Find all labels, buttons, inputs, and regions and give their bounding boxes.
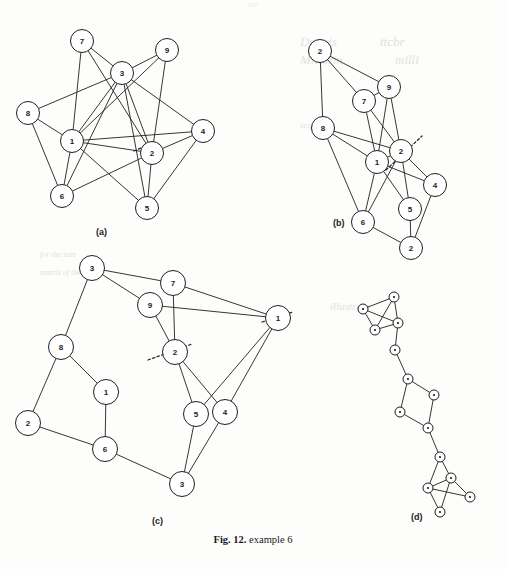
graph-node-4[interactable]: 4	[192, 120, 215, 143]
graph-edge	[403, 162, 408, 197]
graph-node-3[interactable]: 3	[170, 472, 195, 497]
graph-node-8[interactable]: 8	[312, 117, 335, 140]
node-label: 6	[60, 192, 65, 201]
graph-edge	[395, 302, 397, 318]
node-label: 3	[180, 480, 185, 489]
graph-edge	[333, 134, 368, 156]
graph-node[interactable]	[389, 292, 399, 302]
graph-node-7[interactable]: 7	[161, 271, 186, 296]
graph-node-7[interactable]: 7	[353, 90, 376, 113]
node-label: 1	[104, 388, 109, 397]
figure-12-graphs: 7938412652978124562379182125463	[0, 0, 506, 569]
graph-panel-d	[358, 292, 475, 517]
graph-node-1[interactable]: 1	[94, 380, 119, 405]
graph-node-2[interactable]: 2	[309, 40, 332, 63]
graph-node[interactable]	[465, 492, 475, 502]
node-label: 8	[26, 109, 31, 118]
graph-node-5[interactable]: 5	[184, 402, 209, 427]
graph-edge	[231, 329, 272, 401]
graph-node-5[interactable]: 5	[136, 197, 159, 220]
graph-node[interactable]	[390, 345, 400, 355]
graph-edge	[384, 171, 404, 199]
graph-node[interactable]	[395, 407, 405, 417]
node-label-dot	[394, 349, 396, 351]
graph-edge	[33, 358, 56, 411]
graph-edge	[433, 489, 465, 496]
graph-node-2[interactable]: 2	[400, 237, 423, 260]
graph-edge	[404, 414, 423, 425]
graph-edge	[173, 295, 174, 339]
graph-node-1[interactable]: 1	[266, 306, 291, 331]
graph-node-9[interactable]: 9	[378, 76, 401, 99]
graph-node[interactable]	[429, 390, 439, 400]
node-label: 9	[387, 83, 392, 92]
graph-edge	[366, 112, 374, 151]
graph-node-2[interactable]: 2	[16, 411, 41, 436]
graph-node[interactable]	[435, 507, 445, 517]
graph-node[interactable]	[435, 452, 445, 462]
graph-node-6[interactable]: 6	[93, 437, 118, 462]
figure-page: 247 DennisttcbrMillormmillisequenceillus…	[0, 0, 506, 569]
graph-node-9[interactable]: 9	[156, 39, 179, 62]
node-label-dot	[433, 394, 435, 396]
graph-node-1[interactable]: 1	[366, 151, 389, 174]
graph-edge	[391, 98, 399, 139]
graph-node-1[interactable]: 1	[61, 130, 84, 153]
graph-node[interactable]	[423, 423, 433, 433]
graph-node-8[interactable]: 8	[49, 335, 74, 360]
graph-edge	[401, 384, 407, 407]
graph-node[interactable]	[370, 325, 380, 335]
graph-node-2[interactable]: 2	[163, 340, 188, 365]
node-label: 3	[120, 69, 125, 78]
graph-edge	[148, 164, 151, 196]
node-label: 8	[59, 343, 64, 352]
graph-edge	[374, 93, 379, 96]
graph-panel-b: 2978124562	[309, 40, 447, 260]
graph-node-2[interactable]: 2	[141, 142, 164, 165]
graph-edge	[131, 80, 193, 125]
graph-edge	[373, 227, 401, 242]
graph-node-4[interactable]: 4	[424, 174, 447, 197]
graph-node-6[interactable]: 6	[352, 211, 375, 234]
graph-node[interactable]	[403, 374, 413, 384]
node-label-dot	[399, 411, 401, 413]
graph-edge	[83, 143, 140, 152]
graph-node-9[interactable]: 9	[138, 293, 163, 318]
graph-node-6[interactable]: 6	[51, 185, 74, 208]
node-label: 6	[361, 218, 366, 227]
graph-node-3[interactable]: 3	[80, 256, 105, 281]
node-label: 6	[103, 445, 108, 454]
graph-edge	[204, 328, 270, 405]
graph-node-2[interactable]: 2	[390, 140, 413, 163]
graph-node-4[interactable]: 4	[213, 400, 238, 425]
graph-edge	[40, 427, 93, 445]
graph-node-5[interactable]: 5	[399, 198, 422, 221]
graph-node-3[interactable]: 3	[111, 62, 134, 85]
graph-edge	[366, 173, 375, 211]
graph-node[interactable]	[423, 483, 433, 493]
graph-node-7[interactable]: 7	[71, 30, 94, 53]
node-label: 4	[223, 408, 228, 417]
graph-edge	[70, 356, 97, 383]
node-label: 4	[433, 181, 438, 190]
graph-node-8[interactable]: 8	[17, 102, 40, 125]
graph-edge	[83, 132, 191, 140]
node-label: 5	[194, 410, 199, 419]
graph-edge	[442, 483, 450, 507]
graph-edge	[91, 48, 113, 66]
graph-edge	[368, 299, 390, 307]
node-label: 5	[145, 204, 150, 213]
graph-edge	[39, 78, 112, 109]
node-label-dot	[439, 511, 441, 513]
node-label-dot	[362, 308, 364, 310]
graph-node[interactable]	[358, 304, 368, 314]
node-label-dot	[427, 427, 429, 429]
node-label: 1	[375, 158, 380, 167]
node-label-dot	[450, 477, 452, 479]
graph-node[interactable]	[446, 473, 456, 483]
node-label-dot	[439, 456, 441, 458]
graph-edge	[433, 480, 447, 486]
graph-panel-c: 379182125463	[16, 256, 294, 497]
graph-node[interactable]	[393, 318, 403, 328]
node-label: 7	[362, 97, 367, 106]
